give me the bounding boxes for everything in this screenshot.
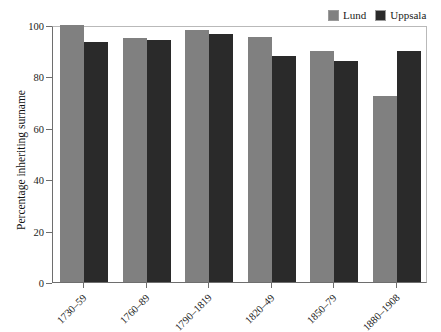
y-axis-tick-mark bbox=[46, 26, 52, 27]
plot-area bbox=[53, 27, 426, 282]
x-axis-tick-mark bbox=[146, 283, 147, 288]
y-axis-tick-label: 60 bbox=[34, 123, 45, 134]
bar-uppsala bbox=[209, 34, 233, 282]
bar-lund bbox=[123, 38, 147, 282]
bar-lund bbox=[310, 51, 334, 282]
legend-swatch-icon bbox=[328, 10, 339, 21]
bar-group bbox=[310, 27, 358, 282]
x-axis-tick-label: 1760–89 bbox=[118, 292, 152, 326]
y-axis-tick-mark bbox=[46, 77, 52, 78]
legend-label: Lund bbox=[343, 10, 366, 21]
x-axis-tick-label: 1850–79 bbox=[305, 292, 339, 326]
bar-lund bbox=[373, 96, 397, 282]
legend-label: Uppsala bbox=[390, 10, 426, 21]
x-axis-tick-mark bbox=[271, 283, 272, 288]
legend-entry-uppsala: Uppsala bbox=[375, 10, 426, 21]
y-axis-tick-mark bbox=[46, 283, 52, 284]
bar-lund bbox=[248, 37, 272, 282]
bar-uppsala bbox=[272, 56, 296, 282]
x-axis-tick-mark bbox=[396, 283, 397, 288]
y-axis-tick-label: 100 bbox=[28, 21, 44, 32]
bar-group bbox=[248, 27, 296, 282]
plot-frame bbox=[52, 26, 427, 283]
y-axis-tick-mark bbox=[46, 129, 52, 130]
legend-swatch-icon bbox=[375, 10, 386, 21]
x-axis-tick-mark bbox=[333, 283, 334, 288]
x-axis-tick-mark bbox=[83, 283, 84, 288]
bar-chart-figure: LundUppsala Percentage inheriting surnam… bbox=[0, 0, 441, 332]
bar-group bbox=[123, 27, 171, 282]
x-axis-tick-label: 1790–1819 bbox=[173, 292, 214, 332]
bar-lund bbox=[60, 25, 84, 282]
y-axis-tick-label: 40 bbox=[34, 175, 45, 186]
bar-uppsala bbox=[84, 42, 108, 282]
y-axis-tick-label: 0 bbox=[39, 278, 44, 289]
bar-uppsala bbox=[334, 61, 358, 282]
y-axis-tick-mark bbox=[46, 180, 52, 181]
bar-uppsala bbox=[147, 40, 171, 282]
legend-entry-lund: Lund bbox=[328, 10, 366, 21]
y-axis: Percentage inheriting surname 0204060801… bbox=[0, 0, 44, 332]
bar-lund bbox=[185, 30, 209, 282]
y-axis-title: Percentage inheriting surname bbox=[15, 60, 27, 260]
bar-group bbox=[60, 27, 108, 282]
bar-uppsala bbox=[397, 51, 421, 282]
x-axis-tick-mark bbox=[208, 283, 209, 288]
y-axis-tick-mark bbox=[46, 232, 52, 233]
bar-group bbox=[185, 27, 233, 282]
x-axis-tick-label: 1820–49 bbox=[243, 292, 277, 326]
y-axis-tick-label: 80 bbox=[34, 72, 45, 83]
x-axis-tick-label: 1730–59 bbox=[55, 292, 89, 326]
y-axis-tick-label: 20 bbox=[34, 226, 45, 237]
bar-group bbox=[373, 27, 421, 282]
x-axis-tick-label: 1880–1908 bbox=[361, 292, 402, 332]
chart-legend: LundUppsala bbox=[328, 8, 426, 22]
